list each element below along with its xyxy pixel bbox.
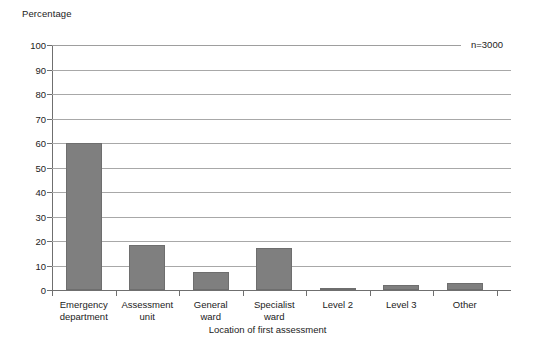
y-axis-tick-label: 80 (35, 89, 46, 100)
gridline (52, 119, 511, 120)
bar (320, 288, 356, 290)
y-axis-tick-mark (47, 70, 52, 71)
y-axis-tick-mark (47, 241, 52, 242)
gridline (52, 192, 511, 193)
y-axis-tick-mark (47, 192, 52, 193)
y-axis-tick-label: 40 (35, 187, 46, 198)
y-axis-tick-mark (47, 217, 52, 218)
y-axis-tick-label: 70 (35, 113, 46, 124)
x-axis-category-label: Other (427, 299, 503, 311)
y-axis-title: Percentage (22, 8, 72, 19)
y-axis-tick-label: 60 (35, 138, 46, 149)
x-axis-tick-mark (243, 290, 244, 296)
y-axis-tick-label: 10 (35, 260, 46, 271)
y-axis-tick-label: 90 (35, 64, 46, 75)
gridline (52, 143, 511, 144)
y-axis-tick-mark (47, 119, 52, 120)
bar (447, 283, 483, 290)
y-axis-tick-label: 50 (35, 162, 46, 173)
gridline (52, 45, 461, 46)
x-axis-title: Location of first assessment (0, 324, 535, 335)
x-axis-tick-mark (306, 290, 307, 296)
bar (129, 245, 165, 290)
x-axis-tick-mark (179, 290, 180, 296)
y-axis-tick-label: 30 (35, 211, 46, 222)
gridline (52, 168, 511, 169)
y-axis-tick-label: 100 (30, 40, 46, 51)
y-axis-tick-label: 20 (35, 236, 46, 247)
plot-area (52, 45, 489, 290)
x-axis-tick-mark (370, 290, 371, 296)
gridline (52, 70, 511, 71)
y-axis-tick-labels: 0102030405060708090100 (20, 45, 46, 290)
x-axis-tick-mark (52, 290, 53, 296)
gridline (52, 217, 511, 218)
bar (383, 285, 419, 290)
y-axis-tick-mark (47, 45, 52, 46)
gridline (52, 241, 511, 242)
bar (66, 143, 102, 290)
gridline (52, 94, 511, 95)
x-axis-tick-mark (116, 290, 117, 296)
bar (256, 248, 292, 290)
bar (193, 272, 229, 290)
y-axis-tick-mark (47, 143, 52, 144)
x-axis-tick-mark (497, 290, 498, 296)
y-axis-tick-mark (47, 266, 52, 267)
y-axis-tick-label: 0 (41, 285, 46, 296)
y-axis-tick-mark (47, 94, 52, 95)
x-axis-tick-mark (433, 290, 434, 296)
y-axis-tick-mark (47, 168, 52, 169)
bar-chart-figure: Percentage n=3000 0102030405060708090100… (0, 0, 535, 341)
x-axis-line (52, 290, 511, 291)
